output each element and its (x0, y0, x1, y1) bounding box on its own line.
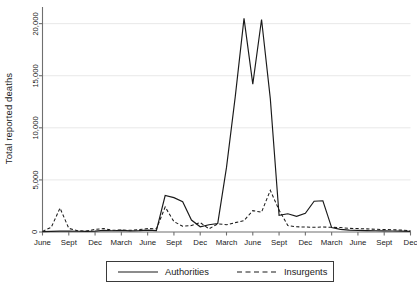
legend-label-authorities: Authorities (165, 267, 209, 277)
axis-lines (43, 7, 411, 232)
legend-label-insurgents: Insurgents (284, 267, 327, 277)
gridlines (43, 24, 411, 180)
legend-swatch-dashed-line (237, 267, 277, 277)
legend-entry-authorities: Authorities (118, 262, 209, 281)
legend-swatch-solid-line (118, 267, 158, 277)
chart-figure: Total reported deaths 05,00010,00015,000… (0, 0, 417, 288)
series-line-authorities (43, 18, 411, 231)
series-line-insurgents (43, 190, 411, 231)
legend-entry-insurgents: Insurgents (237, 262, 327, 281)
plot-area (0, 0, 417, 288)
data-series (43, 18, 411, 231)
chart-legend: Authorities Insurgents (106, 261, 334, 282)
